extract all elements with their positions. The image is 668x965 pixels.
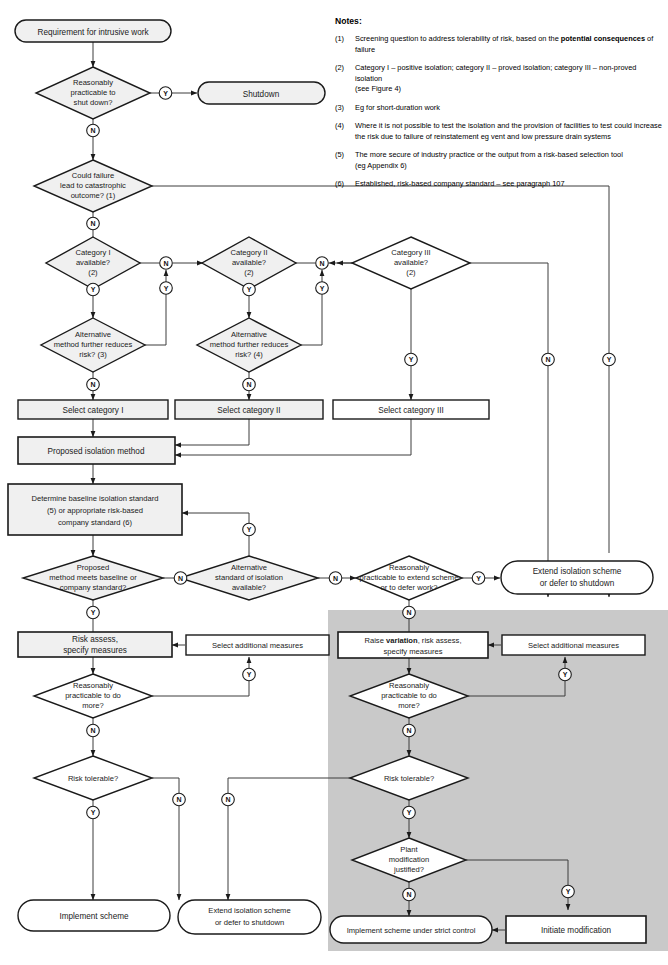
decision-altstd-line1: Alternative: [231, 563, 267, 572]
node-decision-category-1[interactable]: Category I available? (2): [46, 237, 140, 289]
initiate-mod-label: Initiate modification: [541, 926, 612, 935]
proposed-label: Proposed isolation method: [48, 447, 145, 456]
edge-label-plantmod-yes: Y: [562, 885, 575, 898]
decision-more-left-line1: Reasonably: [73, 681, 113, 690]
edge-label-more-left-yes: Y: [243, 668, 256, 681]
edge-label-altstd-yes: Y: [243, 523, 256, 536]
note-item: (6)Established, risk-based company stand…: [335, 179, 665, 190]
node-decision-category-3[interactable]: Category III available? (2): [352, 237, 470, 289]
node-select-category-3[interactable]: Select category III: [333, 400, 489, 419]
decision-more-right-line2: practicable to do: [381, 691, 437, 700]
node-proposed-isolation-method[interactable]: Proposed isolation method: [18, 437, 175, 464]
edge-label-text: N: [406, 609, 411, 616]
note-line: The more secure of industry practice or …: [355, 150, 665, 161]
note-text: Screening question to address tolerabili…: [355, 34, 665, 55]
note-line: Category I – positive isolation; categor…: [355, 63, 665, 84]
edge-label-alt1-yes: Y: [160, 282, 173, 295]
decision-altstd-line3: available?: [232, 583, 266, 592]
decision-extend-line2: practicable to extend scheme: [360, 573, 459, 582]
node-risk-assess-left[interactable]: Risk assess, specify measures: [18, 632, 172, 657]
decision-cat1-line2: available?: [76, 258, 110, 267]
edge-label-extend-yes: Y: [472, 572, 485, 585]
decision-alt1-line3: risk? (3): [79, 350, 107, 359]
node-decision-catastrophic[interactable]: Could failure lead to catastrophic outco…: [34, 160, 152, 212]
edge-label-text: N: [225, 796, 230, 803]
node-extend-isolation-top[interactable]: Extend isolation scheme or defer to shut…: [501, 561, 653, 594]
select-cat1-label: Select category I: [63, 406, 124, 415]
edge-label-alt1-no: N: [87, 378, 100, 391]
edge-label-more-right-yes: Y: [559, 668, 572, 681]
node-decision-risk-tolerable-left[interactable]: Risk tolerable?: [34, 756, 152, 800]
node-select-category-1[interactable]: Select category I: [18, 400, 168, 419]
node-decision-more-left[interactable]: Reasonably practicable to do more?: [34, 674, 152, 718]
node-raise-variation[interactable]: Raise variation, risk assess, specify me…: [338, 632, 488, 658]
node-extend-isolation-bottom[interactable]: Extend isolation scheme or defer to shut…: [178, 900, 321, 934]
edge-label-cat3-no: N: [542, 353, 555, 366]
node-decision-extend-scheme[interactable]: Reasonably practicable to extend scheme …: [356, 556, 462, 600]
decision-catastrophic-line2: lead to catastrophic: [60, 181, 126, 190]
node-implement-strict-control[interactable]: Implement scheme under strict control: [330, 916, 492, 943]
note-text: Where it is not possible to test the iso…: [355, 121, 665, 142]
note-number: (6): [335, 179, 350, 190]
node-decision-alternative-1[interactable]: Alternative method further reduces risk?…: [41, 318, 145, 372]
node-select-additional-measures-left[interactable]: Select additional measures: [186, 635, 329, 655]
decision-more-left-line2: practicable to do: [65, 691, 121, 700]
note-number: (1): [335, 34, 350, 55]
raise-variation-bold: variation: [386, 636, 418, 645]
extend-bottom-line2: or defer to shutdown: [215, 918, 284, 927]
edge-label-text: N: [246, 381, 251, 388]
raise-variation-post: , risk assess,: [418, 636, 462, 645]
node-shutdown-label: Shutdown: [243, 90, 280, 99]
edge-label-cat1-no: N: [160, 257, 173, 270]
node-initiate-modification[interactable]: Initiate modification: [506, 916, 646, 943]
decision-cat2-line1: Category II: [230, 248, 267, 257]
edge-label-meets-yes: Y: [87, 606, 100, 619]
note-line: Where it is not possible to test the iso…: [355, 121, 665, 132]
note-line: (eg Appendix 6): [355, 161, 665, 172]
note-item: (5)The more secure of industry practice …: [335, 150, 665, 171]
edge-label-text: Y: [247, 286, 252, 293]
note-line: the risk due to failure of reinstatement…: [355, 132, 665, 143]
select-cat2-label: Select category II: [217, 406, 280, 415]
decision-shutdown-line2: practicable to: [70, 88, 115, 97]
edge-label-text: N: [406, 891, 411, 898]
node-select-category-2[interactable]: Select category II: [175, 400, 323, 419]
decision-meets-line2: method meets baseline or: [49, 573, 137, 582]
note-item: (2)Category I – positive isolation; cate…: [335, 63, 665, 95]
node-start-label: Requirement for intrusive work: [37, 28, 149, 37]
edge-label-text: N: [90, 220, 95, 227]
edge-label-shutdown-yes: Y: [159, 87, 172, 100]
note-text: The more secure of industry practice or …: [355, 150, 665, 171]
node-start[interactable]: Requirement for intrusive work: [15, 20, 171, 42]
edge-label-cat2-no: N: [316, 257, 329, 270]
decision-catastrophic-line3: outcome? (1): [71, 191, 116, 200]
edge-label-text: Y: [247, 671, 252, 678]
note-line: (see Figure 4): [355, 84, 665, 95]
edge-label-text: N: [90, 381, 95, 388]
edge-label-tol-left-no: N: [173, 793, 186, 806]
decision-alt1-line2: method further reduces: [54, 340, 133, 349]
edge-label-text: N: [545, 356, 550, 363]
node-decision-meets-standard[interactable]: Proposed method meets baseline or compan…: [23, 556, 163, 600]
edge-label-more-left-no: N: [87, 724, 100, 737]
sel-add-right-label: Select additional measures: [528, 641, 619, 650]
edge-label-text: Y: [409, 356, 414, 363]
raise-variation-pre: Raise: [364, 636, 386, 645]
node-shutdown[interactable]: Shutdown: [198, 82, 325, 104]
risk-assess-line1: Risk assess,: [72, 635, 118, 644]
decision-cat2-line3: (2): [244, 268, 254, 277]
node-decision-category-2[interactable]: Category II available? (2): [202, 237, 296, 289]
decision-shutdown-line1: Reasonably: [73, 78, 113, 87]
node-decision-shutdown[interactable]: Reasonably practicable to shut down?: [36, 67, 150, 119]
note-line: Screening question to address tolerabili…: [355, 34, 665, 55]
edge-label-text: Y: [247, 526, 252, 533]
decision-tol-right-label: Risk tolerable?: [384, 774, 434, 783]
node-implement-scheme[interactable]: Implement scheme: [18, 900, 170, 931]
node-select-additional-measures-right[interactable]: Select additional measures: [502, 635, 645, 655]
edge-label-text: Y: [563, 671, 568, 678]
notes-panel: Notes: (1)Screening question to address …: [335, 16, 665, 198]
node-determine-baseline[interactable]: Determine baseline isolation standard (5…: [8, 484, 182, 535]
edge-label-text: N: [333, 575, 338, 582]
node-decision-alternative-standard[interactable]: Alternative standard of isolation availa…: [180, 556, 318, 600]
node-decision-alternative-2[interactable]: Alternative method further reduces risk?…: [197, 318, 301, 372]
